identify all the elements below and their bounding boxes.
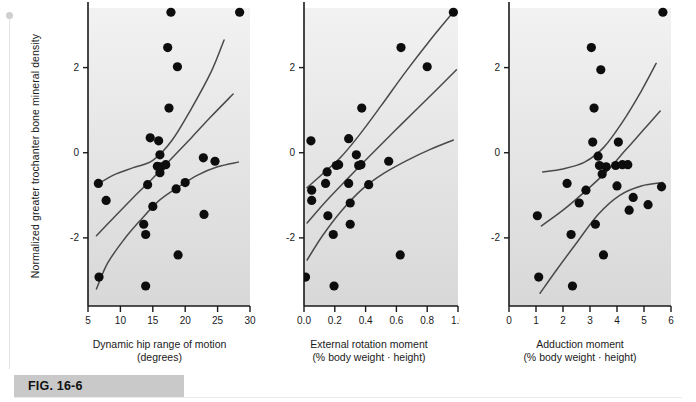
- data-point: [164, 103, 173, 112]
- plot-area-background: [509, 8, 671, 306]
- data-point: [94, 272, 103, 281]
- data-point: [172, 184, 181, 193]
- data-point: [591, 220, 600, 229]
- data-point: [643, 200, 652, 209]
- data-point: [139, 220, 148, 229]
- data-point: [589, 103, 598, 112]
- x-axis-tick-label: 4: [614, 315, 620, 326]
- x-axis-tick-label: 2: [560, 315, 566, 326]
- panel-3-x-axis-title: Adduction moment (% body weight · height…: [480, 338, 680, 364]
- x-axis-tick-label: 0.4: [359, 315, 373, 326]
- panel-3-x-label-line2: (% body weight · height): [480, 351, 680, 364]
- data-point: [396, 43, 405, 52]
- data-point: [148, 202, 157, 211]
- data-point: [334, 160, 343, 169]
- x-axis-tick-label: 20: [180, 315, 192, 326]
- data-point: [625, 206, 634, 215]
- x-axis-tick-label: 0.2: [328, 315, 342, 326]
- data-point: [307, 186, 316, 195]
- figure-16-6: Normalized greater trochanter bone miner…: [0, 0, 696, 402]
- data-point: [449, 8, 458, 17]
- data-point: [141, 281, 150, 290]
- x-axis-tick-label: 15: [147, 315, 159, 326]
- data-point: [423, 62, 432, 71]
- data-point: [352, 150, 361, 159]
- x-axis-tick-label: 5: [641, 315, 647, 326]
- panel-1-plot: 20-251015202530: [62, 0, 257, 330]
- data-point: [235, 8, 244, 17]
- data-point: [173, 250, 182, 259]
- data-point: [329, 281, 338, 290]
- x-axis-tick-label: 1: [533, 315, 539, 326]
- data-point: [612, 181, 621, 190]
- x-axis-tick-label: 10: [115, 315, 127, 326]
- data-point: [344, 134, 353, 143]
- panel-external-rotation-moment: 20-20.00.20.40.60.81.0: [278, 0, 460, 370]
- scatter-panel-group: 20-251015202530 Dynamic hip range of mot…: [0, 0, 696, 370]
- y-axis-tick-label: 0: [289, 147, 295, 158]
- x-axis-tick-label: 6: [668, 315, 674, 326]
- panel-2-x-label-line1: External rotation moment: [272, 338, 466, 351]
- data-point: [102, 196, 111, 205]
- panel-3-x-label-line1: Adduction moment: [480, 338, 680, 351]
- data-point: [614, 138, 623, 147]
- x-axis-tick-label: 0.8: [420, 315, 434, 326]
- data-point: [587, 43, 596, 52]
- panel-dynamic-hip-range-of-motion: 20-251015202530: [62, 0, 257, 370]
- data-point: [396, 250, 405, 259]
- data-point: [602, 162, 611, 171]
- data-point: [323, 167, 332, 176]
- data-point: [173, 62, 182, 71]
- data-point: [357, 103, 366, 112]
- y-axis-tick-label: 2: [494, 62, 500, 73]
- data-point: [568, 281, 577, 290]
- x-axis-tick-label: 0: [506, 315, 512, 326]
- data-point: [94, 179, 103, 188]
- data-point: [199, 210, 208, 219]
- panel-adduction-moment: 20-20123456: [483, 0, 678, 370]
- data-point: [143, 180, 152, 189]
- data-point: [210, 157, 219, 166]
- data-point: [658, 8, 667, 17]
- footer-rule: [14, 397, 682, 398]
- data-point: [307, 196, 316, 205]
- data-point: [581, 186, 590, 195]
- data-point: [534, 272, 543, 281]
- x-axis-tick-label: 25: [212, 315, 224, 326]
- panel-1-x-axis-title: Dynamic hip range of motion (degrees): [62, 338, 257, 364]
- data-point: [155, 150, 164, 159]
- data-point: [364, 180, 373, 189]
- panel-1-x-label-line2: (degrees): [62, 351, 257, 364]
- data-point: [533, 211, 542, 220]
- x-axis-tick-label: 3: [587, 315, 593, 326]
- panel-2-x-axis-title: External rotation moment (% body weight …: [272, 338, 466, 364]
- data-point: [599, 250, 608, 259]
- data-point: [161, 160, 170, 169]
- data-point: [301, 272, 310, 281]
- plot-area-background: [88, 8, 250, 306]
- data-point: [356, 160, 365, 169]
- y-axis-tick-label: -2: [286, 232, 295, 243]
- plot-area-background: [304, 8, 458, 306]
- data-point: [562, 179, 571, 188]
- data-point: [181, 178, 190, 187]
- figure-caption-label: FIG. 16-6: [14, 379, 83, 393]
- data-point: [596, 65, 605, 74]
- data-point: [323, 211, 332, 220]
- figure-caption-bar: FIG. 16-6: [14, 375, 184, 397]
- y-axis-tick-label: -2: [70, 232, 79, 243]
- x-axis-tick-label: 5: [85, 315, 91, 326]
- data-point: [163, 43, 172, 52]
- data-point: [567, 230, 576, 239]
- data-point: [623, 160, 632, 169]
- data-point: [146, 133, 155, 142]
- data-point: [657, 182, 666, 191]
- x-axis-tick-label: 0.0: [297, 315, 311, 326]
- y-axis-tick-label: 0: [494, 147, 500, 158]
- data-point: [141, 230, 150, 239]
- x-axis-tick-label: 0.6: [389, 315, 403, 326]
- data-point: [306, 136, 315, 145]
- data-point: [346, 220, 355, 229]
- panel-2-x-label-line2: (% body weight · height): [272, 351, 466, 364]
- y-axis-tick-label: -2: [491, 232, 500, 243]
